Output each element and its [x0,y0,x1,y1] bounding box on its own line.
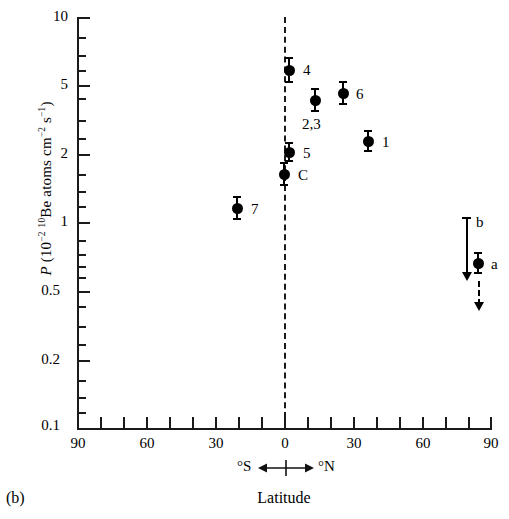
x-minor-tick [100,417,102,428]
marker [338,88,349,99]
x-minor-tick [261,417,263,428]
data-point-label-6: 6 [356,87,364,102]
data-point-label-4: 4 [303,63,311,78]
error-bar-cap-top [311,88,319,90]
y-major-tick [79,154,90,156]
y-minor-tick [79,277,86,279]
x-major-tick [284,417,286,428]
y-major-tick [79,17,90,19]
x-minor-tick [330,417,332,428]
x-major-tick [353,417,355,428]
marker [473,258,484,269]
x-minor-tick [238,417,240,428]
arrow-b-shaft [466,217,468,275]
y-minor-tick [79,380,86,382]
x-major-tick [215,417,217,428]
hemisphere-label-north: °N [318,459,335,474]
y-minor-tick [79,412,86,414]
error-bar-cap-top [285,57,293,59]
panel-letter: (b) [6,489,25,507]
y-major-tick [79,428,90,430]
y-minor-tick [79,254,86,256]
x-major-tick [77,417,79,428]
x-minor-tick [399,417,401,428]
marker [310,95,321,106]
hemisphere-double-arrow-icon [258,459,314,477]
error-bar-cap-top [339,81,347,83]
x-tick-label-90n: 90 [471,436,509,451]
y-major-tick [79,291,90,293]
y-axis-label: P (10−2 10Be atoms cm−2 s−1) [38,59,55,319]
data-point-label-7: 7 [251,202,259,217]
marker [363,136,374,147]
x-major-tick [490,417,492,428]
y-minor-tick [79,70,86,72]
y-major-tick [79,360,90,362]
y-minor-tick [79,191,86,193]
y-minor-tick [79,174,86,176]
y-major-tick [79,85,90,87]
y-minor-tick [79,306,86,308]
x-tick-label-60n: 60 [403,436,443,451]
x-tick-label-60s: 60 [127,436,167,451]
y-minor-tick [79,397,86,399]
marker [232,203,243,214]
y-minor-tick [79,344,86,346]
y-minor-tick [79,206,86,208]
data-point-label-2-3: 2,3 [302,117,321,132]
error-bar-cap-top [280,162,288,164]
arrow-b-head [462,272,472,281]
hemisphere-label-south: °S [237,459,251,474]
marker [284,65,295,76]
x-major-tick [146,417,148,428]
error-bar-cap-top [474,252,482,254]
data-point-label-1: 1 [382,135,390,150]
error-bar-cap-bottom [474,272,482,274]
y-tick-label-0-1: 0.1 [20,418,60,433]
x-minor-tick [169,417,171,428]
data-point-label-a: a [491,257,498,272]
y-tick-label-2: 2 [28,146,68,161]
marker [279,169,290,180]
x-tick-label-30s: 30 [196,436,236,451]
y-major-tick [79,222,90,224]
error-bar-cap-bottom [285,81,293,83]
x-minor-tick [192,417,194,428]
error-bar-cap-top [233,196,241,198]
equator-reference-line [284,17,286,428]
error-bar-cap-bottom [311,110,319,112]
x-minor-tick [376,417,378,428]
y-minor-tick [79,326,86,328]
error-bar-cap-top [364,130,372,132]
marker [284,147,295,158]
y-minor-tick [79,37,86,39]
error-bar-cap-bottom [233,218,241,220]
data-point-label-5: 5 [303,146,311,161]
y-tick-label-5: 5 [28,77,68,92]
y-minor-tick [79,266,86,268]
error-bar-cap-bottom [364,150,372,152]
error-bar-cap-bottom [280,184,288,186]
annotation-label-b: b [476,215,484,230]
x-tick-label-30n: 30 [334,436,374,451]
y-tick-label-0-2: 0.2 [20,352,60,367]
x-tick-label-90s: 90 [58,436,98,451]
error-bar-cap-top [285,142,293,144]
x-minor-tick [123,417,125,428]
x-minor-tick [307,417,309,428]
x-axis-label: Latitude [184,489,384,507]
x-axis-line [77,428,492,430]
figure-panel-b: P (10−2 10Be atoms cm−2 s−1) 10 5 2 1 0.… [0,0,509,519]
x-minor-tick [468,417,470,428]
y-tick-label-1: 1 [28,214,68,229]
y-minor-tick [79,138,86,140]
error-bar-cap-bottom [339,103,347,105]
data-point-label-c: C [298,168,308,183]
y-minor-tick [79,55,86,57]
y-tick-label-0-5: 0.5 [20,283,60,298]
y-minor-tick [79,120,86,122]
y-minor-tick [79,240,86,242]
y-tick-label-10: 10 [28,9,68,24]
x-minor-tick [445,417,447,428]
x-tick-label-0: 0 [265,436,305,451]
